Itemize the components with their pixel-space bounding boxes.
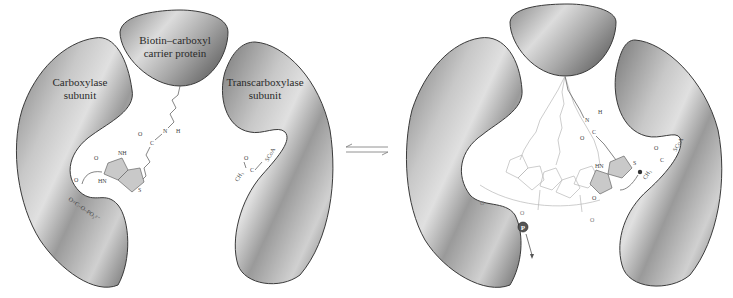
biotin-s: S <box>138 187 141 193</box>
carboxylase-label-2: subunit <box>64 89 96 101</box>
biotin-o-right: O <box>592 195 597 201</box>
acyl-coa-o-right: O <box>654 145 659 151</box>
carboxyphosphate-o: O <box>74 177 79 183</box>
enzyme-diagram: Carboxylase subunit Biotin–carboxyl carr… <box>0 0 733 298</box>
bond <box>255 162 262 170</box>
carbanion-dot <box>638 170 642 174</box>
bccp-subunit-right <box>510 4 616 76</box>
acyl-coa-o: O <box>244 155 249 161</box>
biotin-o: O <box>94 155 99 161</box>
transcarboxylase-subunit-right <box>615 40 722 286</box>
biotin-ring-right: HN O S <box>590 156 636 201</box>
ghost-o-1: O <box>520 210 525 216</box>
amide-c-right: C <box>592 129 596 135</box>
ghost-o-3: O <box>480 200 485 206</box>
carboxylase-label-1: Carboxylase <box>53 76 108 88</box>
swing-arrow <box>480 185 600 206</box>
amide-n-right: N <box>585 117 590 123</box>
acyl-coa-c-right: C <box>660 157 664 163</box>
biotin-s-right: S <box>633 160 636 166</box>
bond <box>244 162 246 168</box>
bccp-label-1: Biotin–carboxyl <box>139 34 211 46</box>
left-state: Carboxylase subunit Biotin–carboxyl carr… <box>16 10 332 287</box>
acyl-coa-ch3: CH₃ <box>234 170 244 182</box>
bond <box>155 134 162 140</box>
ghost-o-2: O <box>590 217 595 223</box>
amide-n: N <box>163 128 168 134</box>
equilibrium-arrow <box>346 144 388 155</box>
lysyl-chain <box>168 86 180 128</box>
phosphate-label: P <box>521 224 526 232</box>
acyl-coa-c: C <box>250 167 254 173</box>
biotin-hn-right: HN <box>595 163 604 169</box>
biotin-ring: O NH HN S <box>94 150 144 193</box>
right-state: O O O N H C O HN O S CH₂ C O SCoA P <box>406 4 721 287</box>
amide-h: H <box>176 128 181 134</box>
transcarboxylase-label-2: subunit <box>249 89 281 101</box>
amide-o: O <box>138 131 143 137</box>
biotin-hn: HN <box>98 178 107 184</box>
amide-c: C <box>150 140 154 146</box>
biotin-nh: NH <box>118 150 127 156</box>
acyl-coa-ch2: CH₂ <box>642 168 652 180</box>
amide-o-right: O <box>580 135 585 141</box>
carboxylase-subunit-right <box>406 38 522 288</box>
bccp-label-2: carrier protein <box>144 47 207 59</box>
transcarboxylase-label-1: Transcarboxylase <box>226 76 303 88</box>
lysyl-chain-right <box>565 76 584 118</box>
amide-h-right: H <box>598 109 603 115</box>
